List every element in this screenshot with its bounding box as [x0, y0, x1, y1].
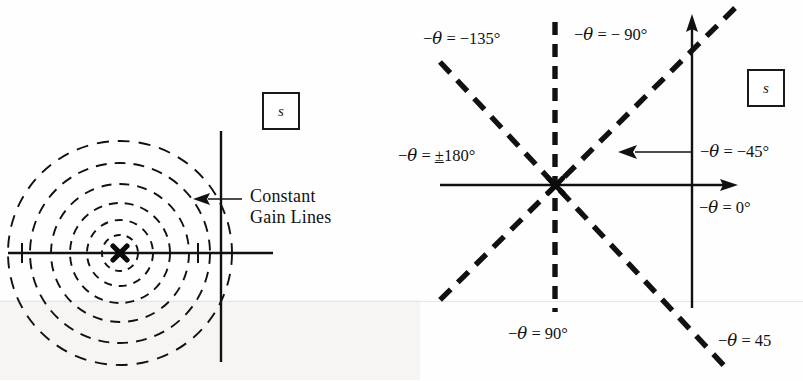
label-theta-plusminus180-prefix: − — [398, 146, 407, 165]
label-theta-plus45-eq: = — [741, 331, 750, 350]
label-theta-zero-eq: = — [722, 198, 731, 217]
label-theta-zero-symbol: θ — [708, 198, 718, 217]
label-theta-minus90-eq: = — [597, 25, 606, 44]
constant-gain-lines-line1: Constant — [250, 186, 331, 207]
minus45-leader — [618, 145, 692, 159]
right-s-plane-label: s — [763, 80, 769, 97]
label-theta-plus90-prefix: − — [508, 324, 517, 343]
label-theta-minus45-symbol: θ — [709, 142, 719, 161]
label-theta-minus90: −θ = − 90° — [574, 26, 647, 44]
label-theta-plusminus180-eq: = — [421, 146, 430, 165]
label-theta-minus135-eq: = — [446, 29, 455, 48]
constant-gain-lines-annotation: Constant Gain Lines — [250, 186, 331, 228]
constant-phase-lines — [440, 8, 735, 372]
label-theta-minus90-prefix: − — [574, 25, 583, 44]
constant-gain-lines-line2: Gain Lines — [250, 207, 331, 228]
label-theta-minus90-symbol: θ — [583, 25, 593, 44]
right-s-plane-box: s — [747, 69, 785, 107]
label-theta-plus45-prefix: − — [718, 331, 727, 350]
phase-line-135 — [440, 62, 730, 372]
right-panel-graphic — [400, 0, 803, 381]
label-theta-plusminus180: −θ = ±180° — [398, 147, 475, 165]
label-theta-plusminus180-value: 180° — [444, 146, 475, 165]
label-theta-minus135-symbol: θ — [432, 29, 442, 48]
label-theta-zero: −θ = 0° — [699, 199, 751, 217]
label-theta-plus90-symbol: θ — [517, 324, 527, 343]
label-theta-minus90-value: − 90° — [611, 25, 648, 44]
label-theta-plus90-eq: = — [531, 324, 540, 343]
label-theta-minus45-eq: = — [723, 142, 732, 161]
label-theta-plus45-symbol: θ — [727, 331, 737, 350]
label-theta-minus135: −θ = −135° — [423, 30, 500, 48]
label-theta-zero-prefix: − — [699, 198, 708, 217]
label-theta-plus90-value: 90° — [545, 324, 568, 343]
label-theta-plus45-value: 45 — [755, 331, 772, 350]
label-theta-plus45: −θ = 45 — [718, 332, 771, 350]
figure-root: s Constant Gain Lines — [0, 0, 803, 381]
label-theta-zero-value: 0° — [736, 198, 751, 217]
phase-line-45 — [440, 8, 735, 300]
label-theta-minus45-value: −45° — [737, 142, 769, 161]
label-theta-plusminus180-symbol: θ — [407, 146, 417, 165]
label-theta-plus90: −θ = 90° — [508, 325, 568, 343]
gain-lines-leader — [193, 193, 242, 205]
label-theta-minus135-prefix: − — [423, 29, 432, 48]
label-theta-plusminus180-pm: ± — [435, 146, 444, 165]
left-s-plane-box: s — [262, 92, 300, 130]
left-panel-graphic — [0, 0, 400, 381]
left-s-plane-label: s — [278, 103, 284, 120]
label-theta-minus135-value: −135° — [460, 29, 501, 48]
label-theta-minus45: −θ = −45° — [700, 143, 769, 161]
label-theta-minus45-prefix: − — [700, 142, 709, 161]
